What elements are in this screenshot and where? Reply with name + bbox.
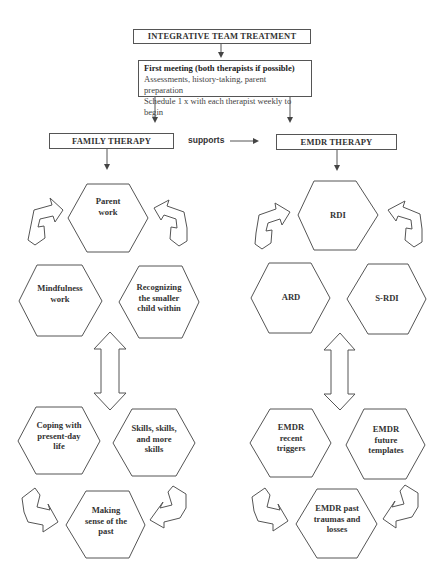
- supports-label: supports: [188, 135, 224, 145]
- hex-line: skills: [114, 444, 194, 455]
- cycle-arrow-family-top-right: [154, 200, 187, 246]
- hex-label-emdr-recent-triggers: EMDR recent triggers: [251, 422, 331, 454]
- hex-label-ard: ARD: [251, 292, 331, 303]
- integrative-team-treatment-box: INTEGRATIVE TEAM TREATMENT: [133, 29, 311, 44]
- cycle-arrow-emdr-top-right: [388, 201, 422, 247]
- hex-line: work: [20, 294, 100, 305]
- family-therapy-box: FAMILY THERAPY: [49, 133, 174, 149]
- hex-label-mindfulness-work: Mindfulness work: [20, 283, 100, 304]
- hex-line: S-RDI: [347, 293, 427, 304]
- hex-line: Coping with: [19, 420, 99, 431]
- hex-label-emdr-past-traumas: EMDR past traumas and losses: [297, 503, 377, 535]
- cycle-arrow-family-bottom-left: [22, 488, 58, 532]
- hex-line: Parent: [68, 196, 148, 207]
- first-meeting-line-1: Assessments, history-taking, parent prep…: [144, 74, 306, 96]
- hex-line: the smaller: [119, 293, 199, 304]
- hex-label-rdi: RDI: [298, 210, 378, 221]
- hex-line: Making: [66, 505, 146, 516]
- first-meeting-heading: First meeting (both therapists if possib…: [144, 63, 306, 74]
- hex-line: ARD: [251, 292, 331, 303]
- double-arrow-emdr: [324, 333, 355, 410]
- hex-line: EMDR: [346, 424, 426, 435]
- hex-line: losses: [297, 524, 377, 535]
- hex-label-skills: Skills, skills, and more skills: [114, 423, 194, 455]
- first-meeting-box: First meeting (both therapists if possib…: [138, 60, 312, 97]
- hex-line: work: [68, 207, 148, 218]
- hex-line: present-day: [19, 431, 99, 442]
- emdr-therapy-box: EMDR THERAPY: [276, 134, 397, 150]
- hex-line: EMDR: [251, 422, 331, 433]
- hex-line: Skills, skills,: [114, 423, 194, 434]
- hex-line: templates: [346, 445, 426, 456]
- hex-label-coping-present: Coping with present-day life: [19, 420, 99, 452]
- hex-line: recent: [251, 433, 331, 444]
- double-arrow-family: [94, 332, 126, 410]
- hex-line: triggers: [251, 443, 331, 454]
- hexagon-parent-work: [68, 184, 148, 252]
- hex-line: Mindfulness: [20, 283, 100, 294]
- hex-line: and more: [114, 434, 194, 445]
- cycle-arrow-family-top-left: [28, 198, 63, 245]
- hex-line: traumas and: [297, 514, 377, 525]
- hex-label-emdr-future-templates: EMDR future templates: [346, 424, 426, 456]
- hex-line: Recognizing: [119, 282, 199, 293]
- cycle-arrow-emdr-top-left: [255, 203, 290, 249]
- cycle-arrow-emdr-bottom-right: [383, 485, 418, 528]
- hex-label-recognizing-child: Recognizing the smaller child within: [119, 282, 199, 314]
- hex-label-parent-work: Parent work: [68, 196, 148, 217]
- cycle-arrow-family-bottom-right: [150, 486, 186, 528]
- hex-line: past: [66, 526, 146, 537]
- first-meeting-line-2: Schedule 1 x with each therapist weekly …: [144, 96, 306, 118]
- cycle-arrow-emdr-bottom-left: [252, 488, 288, 531]
- hex-label-making-sense: Making sense of the past: [66, 505, 146, 537]
- hex-label-s-rdi: S-RDI: [347, 293, 427, 304]
- hex-line: EMDR past: [297, 503, 377, 514]
- hex-line: sense of the: [66, 516, 146, 527]
- hex-line: future: [346, 435, 426, 446]
- hex-line: child within: [119, 303, 199, 314]
- hex-line: RDI: [298, 210, 378, 221]
- hex-line: life: [19, 441, 99, 452]
